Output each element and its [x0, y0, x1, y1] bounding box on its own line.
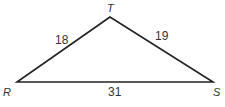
side-label-rt: 18 — [55, 33, 69, 47]
vertex-label-s: S — [213, 86, 221, 98]
vertex-label-r: R — [3, 86, 11, 98]
triangle-rts — [17, 17, 213, 82]
vertex-label-t: T — [107, 2, 115, 14]
side-label-rs: 31 — [108, 85, 122, 99]
side-label-ts: 19 — [155, 29, 169, 43]
triangle-diagram: T R S 18 19 31 — [0, 0, 225, 107]
